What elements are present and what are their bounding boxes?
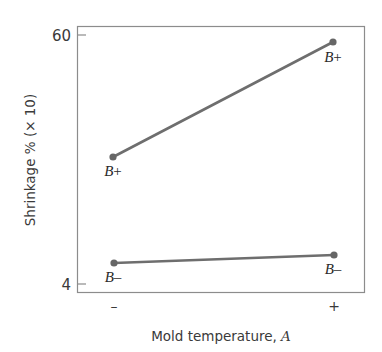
- x-axis-title: Mold temperature, A: [151, 328, 291, 344]
- marker-b-minus-low: [110, 259, 117, 266]
- point-label-b-minus-high: B–: [325, 261, 342, 277]
- x-tick-label-high: +: [328, 298, 340, 314]
- y-tick-label-60: 60: [52, 27, 71, 45]
- point-label-b-minus-low: B–: [105, 269, 122, 285]
- series-b-plus-line: [113, 42, 333, 157]
- x-axis-title-factor: A: [279, 328, 291, 344]
- plot-frame: [78, 27, 365, 293]
- y-tick-label-4: 4: [61, 276, 71, 294]
- marker-b-minus-high: [330, 251, 337, 258]
- x-tick-label-low: –: [111, 298, 118, 314]
- point-label-b-plus-high: B+: [324, 49, 342, 65]
- marker-b-plus-high: [329, 38, 336, 45]
- interaction-plot: 60 4 Shrinkage % (× 10) – + Mold tempera…: [0, 0, 382, 352]
- marker-b-plus-low: [109, 153, 116, 160]
- x-axis-title-text: Mold temperature,: [151, 328, 281, 344]
- y-axis-title: Shrinkage % (× 10): [22, 94, 38, 226]
- series-b-minus-line: [114, 255, 334, 263]
- point-label-b-plus-low: B+: [104, 163, 122, 179]
